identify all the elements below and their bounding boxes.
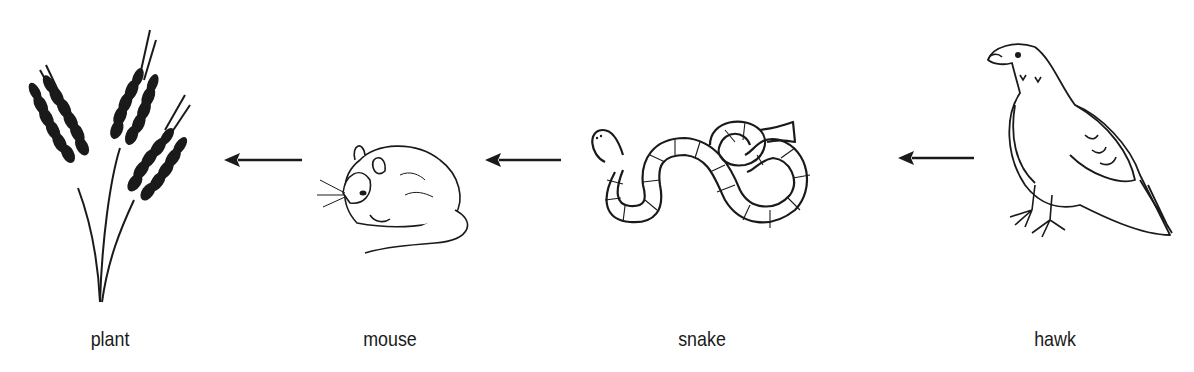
arrow-hawk-to-snake (898, 150, 976, 166)
mouse-illustration (315, 135, 475, 255)
arrow-left-icon (898, 150, 976, 166)
arrow-left-icon (485, 152, 563, 168)
plant-illustration (20, 20, 200, 310)
mouse-label: mouse (339, 327, 441, 351)
hawk-illustration (980, 35, 1180, 265)
arrow-snake-to-mouse (485, 152, 563, 168)
arrow-mouse-to-plant (224, 152, 304, 168)
arrow-left-icon (224, 152, 304, 168)
snake-icon (585, 100, 825, 240)
plant-label: plant (59, 327, 161, 351)
snake-illustration (585, 100, 825, 240)
mouse-icon (315, 135, 475, 255)
wheat-plant-icon (20, 20, 200, 310)
snake-label: snake (651, 327, 753, 351)
hawk-label: hawk (1004, 327, 1106, 351)
hawk-icon (980, 35, 1180, 265)
